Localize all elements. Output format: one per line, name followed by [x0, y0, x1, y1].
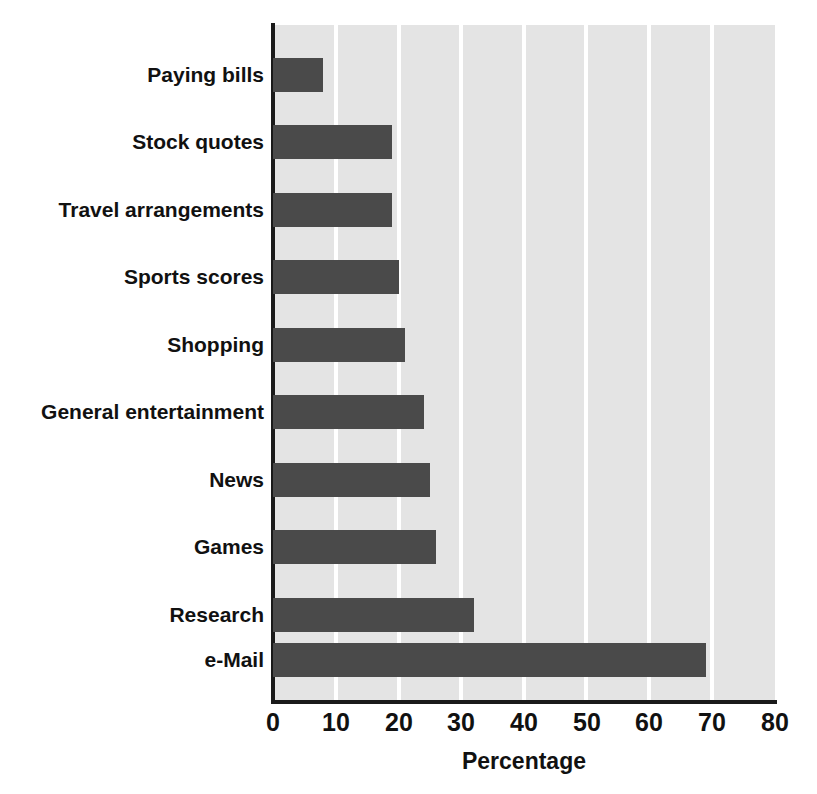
x-tick-70: 70 [698, 708, 726, 737]
bar-stock-quotes [273, 125, 392, 159]
bar-chart-figure: Paying bills Stock quotes Travel arrange… [0, 0, 817, 794]
category-axis-labels: Paying bills Stock quotes Travel arrange… [0, 25, 264, 702]
bar-games [273, 530, 436, 564]
x-tick-20: 20 [385, 708, 413, 737]
category-label-research: Research [0, 598, 264, 632]
category-label-e-mail: e-Mail [0, 643, 264, 677]
bar-paying-bills [273, 58, 323, 92]
x-axis-title: Percentage [273, 748, 775, 775]
category-label-news: News [0, 463, 264, 497]
category-label-travel-arrangements: Travel arrangements [0, 193, 264, 227]
bar-news [273, 463, 430, 497]
bar-e-mail [273, 643, 706, 677]
category-label-shopping: Shopping [0, 328, 264, 362]
x-tick-10: 10 [322, 708, 350, 737]
category-label-stock-quotes: Stock quotes [0, 125, 264, 159]
x-tick-50: 50 [573, 708, 601, 737]
bar-travel-arrangements [273, 193, 392, 227]
category-label-general-entertainment: General entertainment [0, 395, 264, 429]
bars-layer [273, 25, 775, 702]
x-tick-30: 30 [447, 708, 475, 737]
bar-research [273, 598, 474, 632]
bar-general-entertainment [273, 395, 424, 429]
x-tick-80: 80 [761, 708, 789, 737]
category-label-paying-bills: Paying bills [0, 58, 264, 92]
x-axis-tick-labels: 0 10 20 30 40 50 60 70 80 [273, 708, 775, 742]
x-tick-60: 60 [635, 708, 663, 737]
category-label-sports-scores: Sports scores [0, 260, 264, 294]
category-label-games: Games [0, 530, 264, 564]
x-tick-40: 40 [510, 708, 538, 737]
bar-sports-scores [273, 260, 399, 294]
bar-shopping [273, 328, 405, 362]
x-tick-0: 0 [266, 708, 280, 737]
